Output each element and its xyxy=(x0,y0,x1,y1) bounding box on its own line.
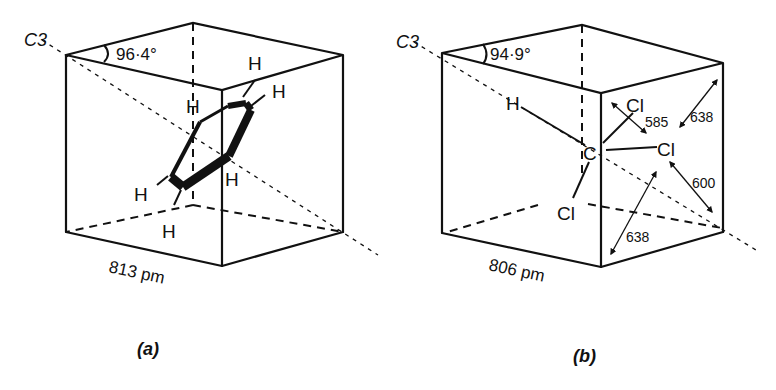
angle-arc-b xyxy=(483,44,487,64)
ch-bonds-a xyxy=(157,80,265,205)
distance-label: 600 xyxy=(692,175,716,191)
atom-cl: Cl xyxy=(557,203,575,224)
edge-length-b: 806 pm xyxy=(487,255,546,285)
distance-label: 585 xyxy=(645,114,669,130)
atom-h: H xyxy=(225,169,239,190)
caption-a: (a) xyxy=(137,339,159,359)
atom-h: H xyxy=(134,184,148,205)
atom-h: H xyxy=(162,221,176,242)
atom-h: H xyxy=(248,53,262,74)
angle-label-b: 94·9° xyxy=(490,45,531,64)
c3-label-a: C3 xyxy=(24,30,47,50)
atom-h: H xyxy=(272,81,286,102)
caption-b: (b) xyxy=(573,346,596,366)
angle-arc-a xyxy=(104,45,108,62)
panel-b: C3 94·9° H C Cl Cl Cl xyxy=(396,25,756,366)
atom-cl: Cl xyxy=(657,139,675,160)
edge-length-a: 813 pm xyxy=(107,257,166,287)
atom-c: C xyxy=(583,143,597,164)
angle-label-a: 96·4° xyxy=(116,45,157,64)
c3-axis-a xyxy=(42,40,378,255)
atom-h: H xyxy=(506,93,520,114)
atom-h: H xyxy=(186,96,200,117)
cube-edges-a xyxy=(66,23,343,266)
atom-cl: Cl xyxy=(626,95,644,116)
benzene-ring xyxy=(171,103,251,187)
figure-canvas: C3 96·4° xyxy=(0,0,776,390)
distance-label: 638 xyxy=(690,109,714,125)
c3-label-b: C3 xyxy=(396,32,419,52)
panel-a: C3 96·4° xyxy=(24,23,378,359)
distance-label: 638 xyxy=(626,229,650,245)
